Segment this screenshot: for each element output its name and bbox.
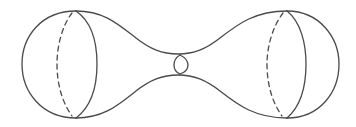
neck-cross-section-front bbox=[180, 55, 188, 74]
left-sphere-meridian-back bbox=[57, 13, 72, 116]
neck-cross-section-back bbox=[174, 55, 180, 74]
dumbbell-diagram: Two spheres connected by a narrow tube (… bbox=[0, 0, 356, 127]
right-sphere-meridian-front bbox=[287, 11, 306, 118]
outline-top bbox=[76, 11, 287, 54]
left-sphere-meridian-front bbox=[76, 11, 97, 118]
left-sphere-outline bbox=[22, 11, 76, 118]
dumbbell-svg bbox=[0, 0, 356, 127]
outline-bottom bbox=[76, 75, 287, 118]
right-sphere-outline bbox=[287, 11, 339, 118]
right-sphere-meridian-back bbox=[267, 13, 283, 116]
